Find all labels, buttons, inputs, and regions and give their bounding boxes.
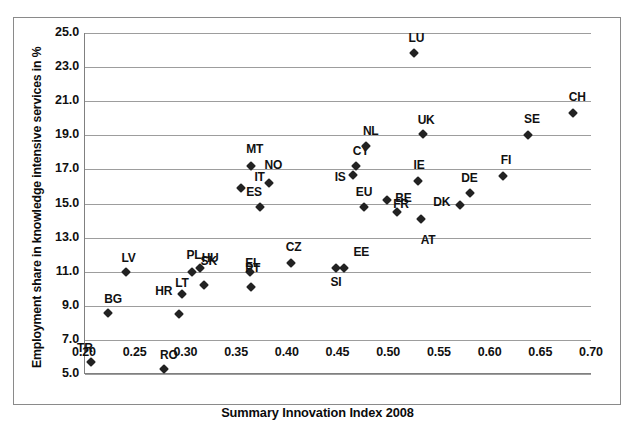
- data-label-IE: IE: [414, 159, 425, 171]
- data-label-LV: LV: [122, 252, 136, 264]
- gridline-y-25.0: [85, 33, 591, 34]
- data-label-LU: LU: [409, 32, 425, 44]
- data-label-HR: HR: [155, 285, 172, 297]
- data-label-DK: DK: [433, 196, 450, 208]
- y-tick-5.0: 5.0: [19, 367, 79, 380]
- y-tick-15.0: 15.0: [19, 197, 79, 210]
- y-tick-9.0: 9.0: [19, 299, 79, 312]
- gridline-y-5.0: [85, 374, 591, 375]
- chart-figure: Employment share in knowledge intensive …: [0, 0, 635, 423]
- data-label-CH: CH: [569, 91, 586, 103]
- data-point-DE: [465, 188, 475, 198]
- x-axis-title: Summary Innovation Index 2008: [0, 405, 635, 420]
- data-label-ES: ES: [246, 186, 262, 198]
- data-point-IE: [413, 176, 423, 186]
- data-label-UK: UK: [418, 114, 435, 126]
- gridline-y-23.0: [85, 67, 591, 68]
- data-label-NO: NO: [265, 159, 283, 171]
- y-tick-17.0: 17.0: [19, 162, 79, 175]
- data-point-LV: [121, 267, 131, 277]
- data-label-AT: AT: [421, 234, 436, 246]
- y-tick-25.0: 25.0: [19, 26, 79, 39]
- data-label-IS: IS: [335, 171, 346, 183]
- data-label-BG: BG: [104, 293, 122, 305]
- data-label-SI: SI: [330, 276, 341, 288]
- data-label-SE: SE: [524, 113, 540, 125]
- data-point-FI: [498, 171, 508, 181]
- y-tick-7.0: 7.0: [19, 333, 79, 346]
- gridline-y-7.0: [85, 340, 591, 341]
- data-label-BE: BE: [395, 192, 411, 204]
- y-tick-19.0: 19.0: [19, 128, 79, 141]
- data-point-AT: [416, 214, 426, 224]
- data-point-LU: [409, 49, 419, 59]
- data-point-LT: [174, 309, 184, 319]
- data-label-CZ: CZ: [286, 241, 302, 253]
- gridline-y-11.0: [85, 272, 591, 273]
- gridline-y-13.0: [85, 238, 591, 239]
- gridline-y-19.0: [85, 135, 591, 136]
- gridline-y-21.0: [85, 101, 591, 102]
- data-point-NO: [264, 178, 274, 188]
- data-label-IT: IT: [254, 171, 264, 183]
- data-label-DE: DE: [461, 172, 477, 184]
- data-label-FI: FI: [501, 154, 511, 166]
- data-point-ES: [236, 183, 246, 193]
- data-label-NL: NL: [363, 125, 379, 137]
- data-point-EL: [246, 282, 256, 292]
- data-label-EL: EL: [245, 257, 260, 269]
- y-tick-11.0: 11.0: [19, 265, 79, 278]
- data-point-HR: [177, 289, 187, 299]
- data-label-PL: PL: [186, 249, 201, 261]
- data-point-RO: [159, 364, 169, 374]
- data-point-UK: [418, 129, 428, 139]
- y-tick-21.0: 21.0: [19, 94, 79, 107]
- data-label-HU: HU: [202, 252, 219, 264]
- data-point-CH: [568, 108, 578, 118]
- data-point-SE: [523, 130, 533, 140]
- data-label-EU: EU: [356, 186, 372, 198]
- data-point-DK: [455, 200, 465, 210]
- data-point-IS: [348, 170, 358, 180]
- data-label-LT: LT: [175, 277, 188, 289]
- top-cropped-caption-strip: [0, 0, 635, 16]
- data-label-EE: EE: [354, 246, 370, 258]
- data-label-MT: MT: [246, 143, 263, 155]
- data-point-BG: [103, 308, 113, 318]
- x-tick-0.70: 0.70: [561, 346, 621, 359]
- data-point-CZ: [286, 258, 296, 268]
- plot-area: TRBGLVROLTHRPLSKHUESPTELMTITNOCZSIEEISCY…: [84, 33, 591, 374]
- gridline-y-15.0: [85, 204, 591, 205]
- gridline-y-9.0: [85, 306, 591, 307]
- data-point-HU: [199, 280, 209, 290]
- y-tick-23.0: 23.0: [19, 60, 79, 73]
- y-tick-13.0: 13.0: [19, 231, 79, 244]
